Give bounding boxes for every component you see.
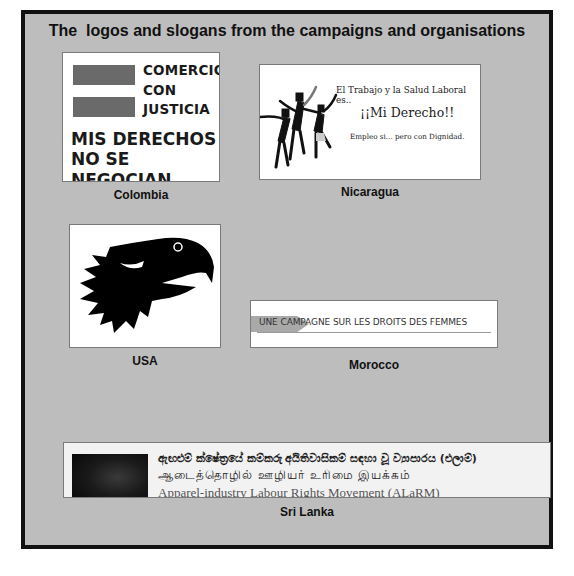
slogan-sinhala: ඇඟළුම් ක්ෂේත්‍රයේ කම්කරු අයිතිවාසිකම් සඳ…: [158, 452, 477, 465]
slogan-line: JUSTICIA: [143, 101, 210, 117]
slogan-line: COMERCIO: [143, 62, 220, 78]
slogan-english: Apparel-industry Labour Rights Movement …: [158, 485, 440, 498]
slogan-line: ¡¡Mi Derecho!!: [360, 105, 454, 120]
flag-bar-icon: [73, 65, 135, 85]
slogan-line: NO SE NEGOCIAN: [71, 148, 219, 182]
underline-divider: [257, 332, 491, 333]
slogan-line: UNE CAMPAGNE SUR LES DROITS DES FEMMES: [259, 317, 467, 327]
caption-nicaragua: Nicaragua: [259, 185, 481, 199]
srilanka-logo: ඇඟළුම් ක්ෂේත්‍රයේ කම්කරු අයිතිවාසිකම් සඳ…: [63, 442, 551, 498]
nicaragua-logo: El Trabajo y la Salud Laboral es.. ¡¡Mi …: [259, 64, 481, 180]
caption-usa: USA: [69, 354, 221, 368]
worker-photo: [72, 454, 148, 498]
caption-srilanka: Sri Lanka: [63, 505, 551, 519]
flag-bar-icon: [73, 97, 135, 117]
caption-morocco: Morocco: [250, 358, 498, 372]
slogan-line: Empleo si... pero con Dignidad.: [350, 132, 464, 141]
figure-title: The logos and slogans from the campaigns…: [25, 22, 549, 40]
eagle-head-icon: [70, 225, 221, 348]
morocco-logo: UNE CAMPAGNE SUR LES DROITS DES FEMMES: [250, 300, 498, 348]
slogan-line: El Trabajo y la Salud Laboral es..: [336, 85, 480, 105]
colombia-logo: COMERCIO CON JUSTICIA MIS DERECHOS NO SE…: [62, 52, 220, 182]
caption-colombia: Colombia: [62, 188, 220, 202]
usa-logo: [69, 224, 221, 348]
slogan-line: CON: [143, 82, 176, 98]
slogan-line: MIS DERECHOS: [71, 129, 216, 150]
slogan-tamil: ஆடைத்தொழில் ஊழியர் உரிமை இயக்கம்: [158, 468, 411, 483]
logos-figure-frame: The logos and slogans from the campaigns…: [21, 10, 553, 549]
